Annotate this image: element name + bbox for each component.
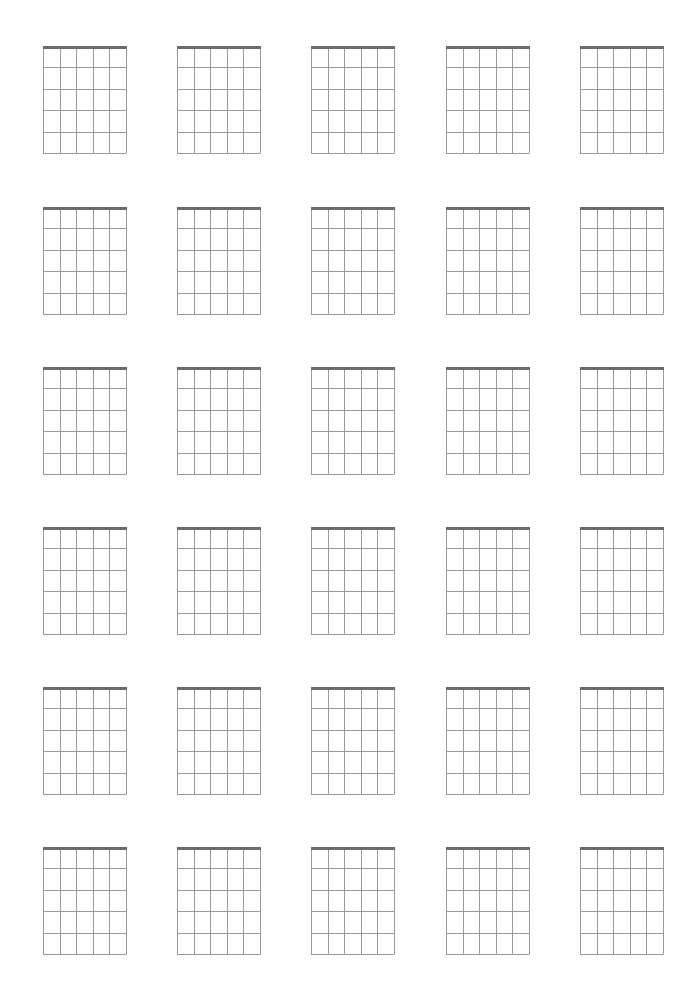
nut-bar [311,207,395,210]
nut-bar [446,527,530,530]
chord-diagram [446,46,529,153]
nut-bar [177,687,261,690]
chord-diagram [311,207,394,314]
chord-diagram [580,367,663,474]
nut-bar [43,847,127,850]
nut-bar [43,46,127,49]
chord-diagram [446,847,529,954]
nut-bar [177,46,261,49]
nut-bar [446,687,530,690]
nut-bar [177,367,261,370]
chord-diagram [177,207,260,314]
chord-diagram [43,367,126,474]
chord-diagram [580,527,663,634]
chord-diagram [580,687,663,794]
nut-bar [311,847,395,850]
chord-diagram [177,847,260,954]
nut-bar [446,847,530,850]
nut-bar [580,847,664,850]
chord-diagram [43,527,126,634]
nut-bar [580,46,664,49]
nut-bar [311,46,395,49]
nut-bar [311,367,395,370]
chord-diagram [177,367,260,474]
nut-bar [43,527,127,530]
nut-bar [446,207,530,210]
chord-diagram [177,46,260,153]
chord-diagram [311,847,394,954]
nut-bar [580,367,664,370]
nut-bar [580,207,664,210]
chord-diagram [311,687,394,794]
chord-diagram [311,46,394,153]
nut-bar [311,527,395,530]
chord-diagram [446,367,529,474]
chord-diagram [43,46,126,153]
nut-bar [177,527,261,530]
chord-diagram [43,207,126,314]
nut-bar [446,46,530,49]
chord-diagram [580,207,663,314]
nut-bar [177,207,261,210]
chord-diagram [43,847,126,954]
chord-diagram [177,527,260,634]
chord-diagram [311,527,394,634]
nut-bar [43,367,127,370]
chord-diagram [446,527,529,634]
nut-bar [580,687,664,690]
nut-bar [43,687,127,690]
nut-bar [177,847,261,850]
nut-bar [580,527,664,530]
chord-diagram [177,687,260,794]
chord-diagram [580,847,663,954]
chord-diagram [311,367,394,474]
nut-bar [43,207,127,210]
nut-bar [446,367,530,370]
chord-diagram [43,687,126,794]
chord-diagram [446,207,529,314]
chord-diagram [446,687,529,794]
nut-bar [311,687,395,690]
chord-chart-page [0,0,700,998]
chord-diagram [580,46,663,153]
